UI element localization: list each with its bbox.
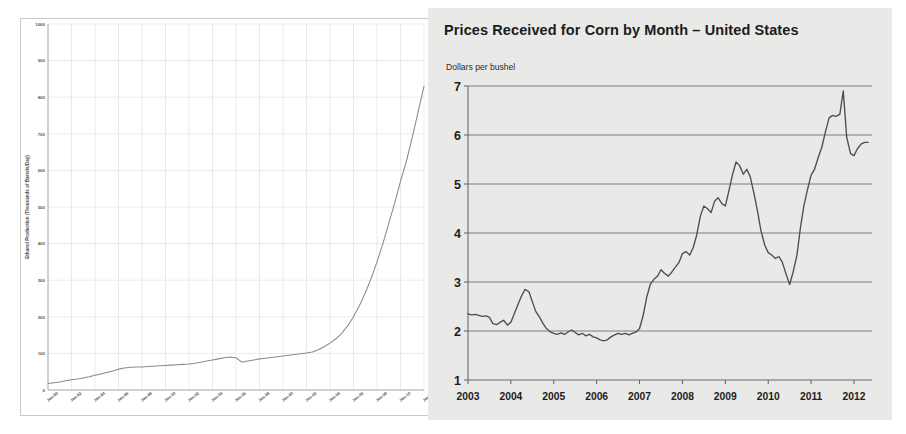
svg-text:500: 500 (38, 205, 46, 210)
svg-text:2006: 2006 (585, 391, 608, 402)
ethanol-production-chart: 01002003004005006007008009001000 Jan-80J… (20, 18, 430, 416)
svg-text:2004: 2004 (499, 391, 522, 402)
svg-text:Jan-84: Jan-84 (93, 390, 107, 403)
corn-y-tick-labels: 1234567 (454, 80, 468, 388)
svg-text:900: 900 (38, 58, 46, 63)
svg-text:0: 0 (43, 388, 46, 393)
svg-text:2003: 2003 (457, 391, 480, 402)
svg-text:2010: 2010 (757, 391, 780, 402)
svg-text:Jan-02: Jan-02 (304, 390, 318, 403)
corn-horizontal-gridlines (468, 86, 872, 331)
svg-text:2009: 2009 (714, 391, 737, 402)
svg-text:600: 600 (38, 168, 46, 173)
svg-text:6: 6 (454, 129, 461, 143)
svg-text:Jan-98: Jan-98 (257, 390, 271, 403)
svg-text:Jan-06: Jan-06 (351, 390, 365, 403)
svg-text:800: 800 (38, 95, 46, 100)
svg-text:Jan-08: Jan-08 (375, 390, 389, 403)
figure-pair: 01002003004005006007008009001000 Jan-80J… (0, 0, 906, 434)
corn-prices-chart: 1234567 20032004200520062007200820092010… (428, 8, 892, 420)
svg-text:4: 4 (454, 227, 461, 241)
svg-text:400: 400 (38, 241, 46, 246)
svg-text:Jan-90: Jan-90 (163, 390, 177, 403)
svg-text:2011: 2011 (800, 391, 823, 402)
svg-text:Jan-80: Jan-80 (46, 390, 60, 403)
svg-text:700: 700 (38, 132, 46, 137)
ethanol-y-axis-title: Ethanol Production (Thousands of Barrels… (25, 155, 30, 259)
corn-price-line (468, 91, 868, 341)
svg-text:Jan-88: Jan-88 (140, 390, 154, 403)
svg-text:Jan-10: Jan-10 (398, 390, 412, 403)
svg-text:5: 5 (454, 178, 461, 192)
svg-text:1: 1 (454, 374, 461, 388)
svg-text:Jan-96: Jan-96 (234, 390, 248, 403)
svg-text:2007: 2007 (628, 391, 651, 402)
svg-text:Jan-04: Jan-04 (328, 390, 342, 403)
svg-text:200: 200 (38, 315, 46, 320)
svg-text:300: 300 (38, 278, 46, 283)
svg-text:7: 7 (454, 80, 461, 94)
ethanol-y-tick-labels: 01002003004005006007008009001000 (35, 22, 45, 393)
svg-text:Jan-94: Jan-94 (210, 390, 224, 403)
svg-text:Jan-00: Jan-00 (281, 390, 295, 403)
svg-text:2008: 2008 (671, 391, 694, 402)
svg-text:2005: 2005 (542, 391, 565, 402)
ethanol-production-chart-panel: 01002003004005006007008009001000 Jan-80J… (0, 0, 440, 434)
svg-text:Jan-82: Jan-82 (69, 390, 83, 403)
corn-x-tick-labels: 2003200420052006200720082009201020112012 (457, 391, 866, 402)
svg-text:Jan-86: Jan-86 (116, 390, 130, 403)
svg-text:2012: 2012 (843, 391, 866, 402)
ethanol-x-tick-labels: Jan-80Jan-82Jan-84Jan-86Jan-88Jan-90Jan-… (46, 390, 430, 403)
svg-text:Jan-92: Jan-92 (187, 390, 201, 403)
svg-text:2: 2 (454, 325, 461, 339)
svg-text:3: 3 (454, 276, 461, 290)
svg-text:100: 100 (38, 351, 46, 356)
svg-text:Ethanol Production (Thousands: Ethanol Production (Thousands of Barrels… (25, 155, 30, 259)
corn-x-tick-marks (468, 380, 854, 384)
svg-text:1000: 1000 (35, 22, 45, 27)
